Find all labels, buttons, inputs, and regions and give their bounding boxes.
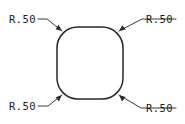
- cad-drawing-svg: R.50 R.50 R.50 R.50: [0, 0, 185, 124]
- radius-label-bottom-right: R.50: [146, 102, 173, 114]
- radius-label-top-left: R.50: [9, 13, 36, 25]
- technical-drawing-canvas: R.50 R.50 R.50 R.50: [0, 0, 185, 124]
- radius-label-bottom-left: R.50: [9, 100, 36, 112]
- radius-label-top-right: R.50: [146, 13, 173, 25]
